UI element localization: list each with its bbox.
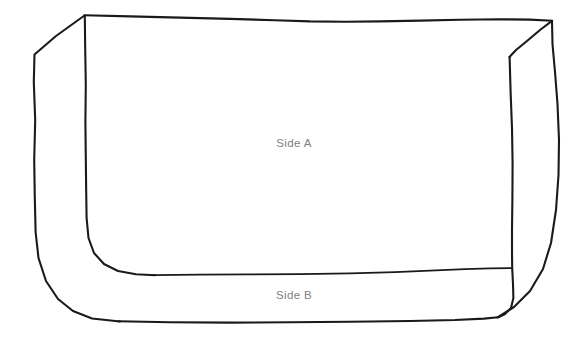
sketch-drawing bbox=[0, 0, 588, 337]
inner-left-edge-path bbox=[85, 16, 155, 275]
top-edge-path bbox=[85, 15, 553, 22]
outer-right-edge-path bbox=[498, 21, 560, 317]
top-right-bevel-path bbox=[510, 21, 553, 57]
diagram-canvas: Side A Side B bbox=[0, 0, 588, 337]
panel-label-side-a: Side A bbox=[276, 137, 311, 149]
inner-right-edge-path bbox=[499, 57, 514, 317]
panel-label-side-b: Side B bbox=[276, 289, 312, 301]
outer-bottom-edge-path bbox=[118, 317, 498, 322]
side-a-bottom-edge-path bbox=[153, 268, 512, 275]
outer-left-edge-path bbox=[34, 16, 120, 322]
